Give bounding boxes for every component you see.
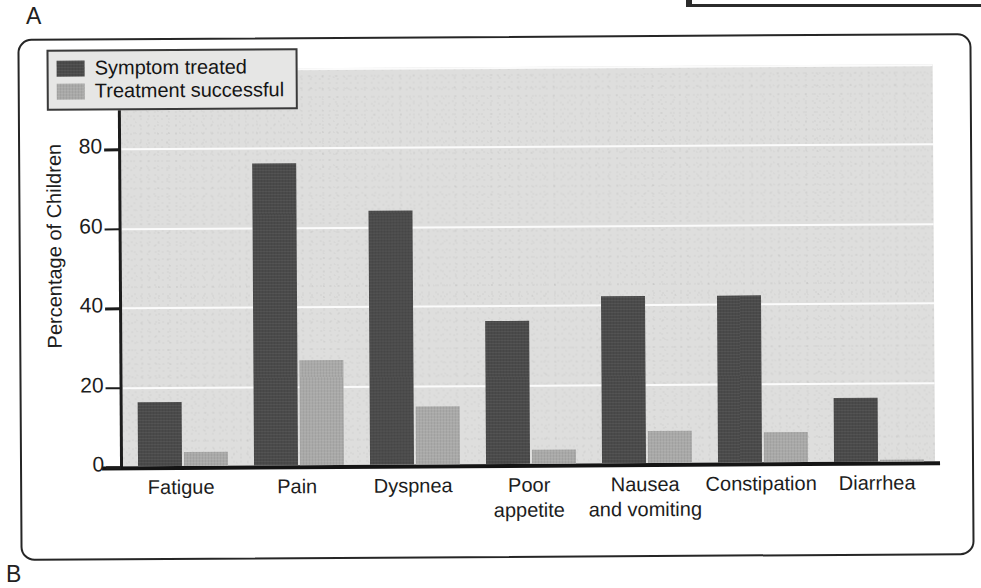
legend-swatch-icon — [57, 83, 85, 99]
bar-nausea-and-vomiting-symptom-treated — [601, 296, 646, 463]
bar-constipation-symptom-treated — [717, 296, 762, 463]
x-axis-category-label-line: and vomiting — [535, 496, 755, 522]
bar-fatigue-symptom-treated — [138, 402, 182, 466]
legend-swatch-icon — [57, 60, 85, 76]
y-axis-tick-mark — [106, 387, 121, 390]
y-axis-tick-label: 60 — [60, 214, 102, 238]
y-axis-tick-label: 80 — [60, 135, 102, 159]
legend-item-treatment-successful: Treatment successful — [57, 78, 284, 102]
y-axis-tick-mark — [105, 307, 120, 310]
bar-chart: 020406080100 Percentage of Children Fati… — [17, 33, 970, 557]
x-axis-category-label-diarrhea: Diarrhea — [767, 470, 981, 496]
bar-pain-treatment-successful — [299, 360, 344, 465]
y-axis-tick-label: 0 — [62, 452, 104, 476]
bars-layer — [121, 64, 935, 466]
x-axis-category-label-line: Diarrhea — [767, 470, 981, 496]
scan-edge-artifact-inner — [692, 0, 981, 4]
legend-item-label: Symptom treated — [95, 56, 247, 80]
bar-poor-appetite-symptom-treated — [485, 321, 530, 464]
y-axis-tick-mark — [105, 228, 120, 231]
y-axis-tick-label: 40 — [61, 294, 103, 318]
bar-dyspnea-treatment-successful — [416, 407, 460, 465]
y-axis-tick-label: 20 — [61, 373, 103, 397]
y-axis-tick-mark — [106, 466, 121, 469]
bar-pain-symptom-treated — [252, 163, 298, 465]
bar-constipation-treatment-successful — [764, 432, 808, 462]
y-axis-ticks: 020406080100 — [17, 33, 967, 39]
bar-diarrhea-symptom-treated — [834, 398, 878, 462]
bar-nausea-and-vomiting-treatment-successful — [648, 431, 692, 463]
bar-poor-appetite-treatment-successful — [532, 450, 576, 464]
bar-dyspnea-symptom-treated — [368, 210, 414, 464]
y-axis-tick-mark — [104, 149, 119, 152]
legend-item-label: Treatment successful — [95, 78, 284, 102]
panel-label-b: B — [6, 561, 21, 588]
legend-item-symptom-treated: Symptom treated — [57, 55, 284, 79]
x-axis-category-labels: FatiguePainDyspneaPoorappetiteNauseaand … — [123, 470, 935, 535]
legend: Symptom treatedTreatment successful — [46, 48, 298, 111]
bar-fatigue-treatment-successful — [184, 452, 228, 466]
y-axis-title: Percentage of Children — [42, 76, 67, 416]
panel-label-a: A — [26, 3, 41, 30]
bar-diarrhea-treatment-successful — [880, 459, 924, 461]
